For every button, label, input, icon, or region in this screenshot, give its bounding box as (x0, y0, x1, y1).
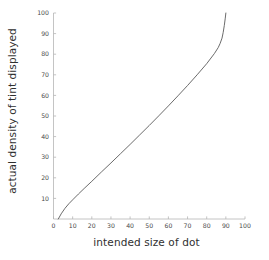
data-series-group (58, 13, 226, 219)
x-tick-label: 0 (52, 222, 56, 229)
x-tick-label: 80 (203, 222, 211, 229)
y-tick-label: 70 (41, 71, 49, 78)
x-tick-label: 100 (239, 222, 251, 229)
y-tick-label: 90 (41, 30, 49, 37)
x-tick-label: 40 (126, 222, 134, 229)
ticks-group: 0102030405060708090100102030405060708090… (37, 9, 251, 229)
y-tick-label: 30 (41, 153, 49, 160)
x-tick-label: 50 (145, 222, 153, 229)
x-tick-label: 70 (184, 222, 192, 229)
axes-group (54, 13, 246, 219)
y-tick-label: 60 (41, 92, 49, 99)
y-tick-label: 40 (41, 133, 49, 140)
y-tick-label: 100 (37, 9, 49, 16)
x-tick-label: 60 (164, 222, 172, 229)
x-tick-label: 10 (69, 222, 77, 229)
y-tick-label: 50 (41, 112, 49, 119)
x-tick-label: 30 (107, 222, 115, 229)
chart-figure: actual density of tint displayed 0102030… (0, 0, 269, 260)
x-tick-label: 90 (222, 222, 230, 229)
y-tick-label: 10 (41, 195, 49, 202)
x-axis-title: intended size of dot (24, 236, 269, 248)
y-tick-label: 80 (41, 50, 49, 57)
plot-area: 0102030405060708090100102030405060708090… (0, 0, 269, 260)
x-tick-label: 20 (88, 222, 96, 229)
data-curve (58, 13, 226, 219)
y-tick-label: 20 (41, 174, 49, 181)
